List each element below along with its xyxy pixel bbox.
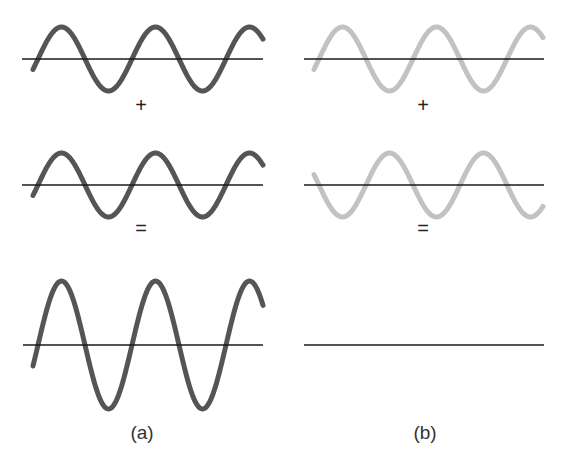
panel-b-wave-2-inverted	[304, 153, 544, 217]
plus-sign-b: +	[417, 95, 429, 115]
equals-sign-b: =	[417, 218, 429, 238]
interference-diagram	[0, 0, 562, 468]
panel-a-resultant	[23, 281, 263, 409]
panel-b-wave-1	[304, 27, 544, 91]
panel-b-destructive-interference	[304, 27, 544, 345]
panel-a-wave-2	[22, 153, 263, 217]
panel-a-wave-1	[22, 27, 263, 91]
plus-sign-a: +	[135, 95, 147, 115]
caption-a: (a)	[130, 423, 153, 442]
caption-b: (b)	[413, 423, 436, 442]
equals-sign-a: =	[135, 218, 147, 238]
